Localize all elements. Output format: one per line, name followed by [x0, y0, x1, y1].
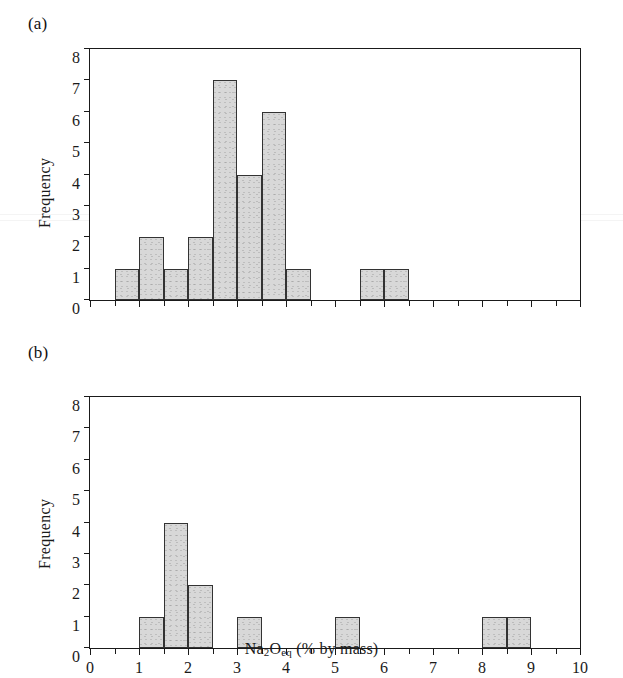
x-tick-mark: [188, 300, 189, 307]
y-tick-mark: [84, 427, 90, 428]
x-tick-mark: [433, 300, 434, 307]
x-tick-mark: [311, 300, 312, 306]
x-tick-label: 8: [478, 659, 486, 677]
x-axis-title-units: (% by mass): [292, 640, 378, 657]
histogram-bar: [262, 112, 287, 300]
y-tick-mark: [84, 584, 90, 585]
x-tick-mark: [458, 300, 459, 306]
x-tick-mark: [409, 300, 410, 306]
histogram-bar: [237, 175, 262, 301]
x-tick-mark: [360, 300, 361, 306]
y-tick-mark: [84, 553, 90, 554]
y-tick-mark: [84, 205, 90, 206]
histogram-bar: [188, 585, 213, 648]
y-tick-mark: [84, 268, 90, 269]
x-tick-mark: [335, 300, 336, 307]
y-tick-mark: [84, 142, 90, 143]
histogram-bar: [164, 269, 189, 300]
x-tick-label: 3: [233, 659, 241, 677]
x-tick-label: 0: [86, 659, 94, 677]
histogram-bar: [286, 269, 311, 300]
panel-a-bars: [90, 49, 580, 300]
x-tick-mark: [531, 300, 532, 307]
x-tick-mark: [507, 300, 508, 306]
x-tick-mark: [237, 300, 238, 307]
histogram-bar: [164, 523, 189, 649]
y-tick-mark: [84, 616, 90, 617]
y-tick-mark: [84, 396, 90, 397]
x-tick-label: 7: [429, 659, 437, 677]
x-tick-label: 9: [527, 659, 535, 677]
x-tick-label: 10: [572, 659, 588, 677]
histogram-bar: [188, 237, 213, 300]
panel-b-y-axis-title: Frequency: [36, 499, 54, 569]
x-tick-label: 5: [331, 659, 339, 677]
x-tick-mark: [164, 300, 165, 306]
x-tick-mark: [262, 300, 263, 306]
x-axis-title-sub-eq: eq: [281, 646, 292, 658]
histogram-bar: [213, 80, 238, 300]
x-tick-mark: [482, 300, 483, 307]
y-tick-mark: [84, 174, 90, 175]
x-tick-label: 6: [380, 659, 388, 677]
histogram-figure: (a) Frequency 012345678 (b) Frequency 01…: [0, 0, 623, 678]
panel-a-plot-area: 012345678: [89, 48, 581, 301]
y-tick-mark: [84, 236, 90, 237]
histogram-bar: [384, 269, 409, 300]
x-tick-label: 2: [184, 659, 192, 677]
panel-a-y-axis-title: Frequency: [36, 158, 54, 228]
histogram-bar: [115, 269, 140, 300]
x-tick-mark: [384, 300, 385, 307]
x-tick-mark: [213, 300, 214, 306]
y-tick-mark: [84, 79, 90, 80]
panel-b-plot-area: 012345678 012345678910: [89, 396, 581, 649]
y-tick-mark: [84, 522, 90, 523]
x-axis-title: Na2Oeq (% by mass): [0, 640, 623, 658]
panel-b-label: (b): [28, 343, 48, 363]
y-tick-mark: [84, 111, 90, 112]
x-tick-label: 1: [135, 659, 143, 677]
x-axis-title-o: O: [269, 640, 281, 657]
y-tick-mark: [84, 48, 90, 49]
x-tick-label: 4: [282, 659, 290, 677]
histogram-bar: [360, 269, 385, 300]
histogram-bar: [139, 237, 164, 300]
x-tick-mark: [556, 300, 557, 306]
y-tick-mark: [84, 459, 90, 460]
panel-a: (a) Frequency 012345678: [0, 0, 623, 339]
x-tick-mark: [286, 300, 287, 307]
x-tick-mark: [115, 300, 116, 306]
panel-a-label: (a): [28, 14, 47, 34]
x-axis-title-na: Na: [245, 640, 264, 657]
panel-b-bars: [90, 397, 580, 648]
x-tick-mark: [90, 300, 91, 307]
x-tick-mark: [580, 300, 581, 307]
y-tick-mark: [84, 490, 90, 491]
panel-b: (b) Frequency 012345678 012345678910: [0, 339, 623, 678]
x-tick-mark: [139, 300, 140, 307]
